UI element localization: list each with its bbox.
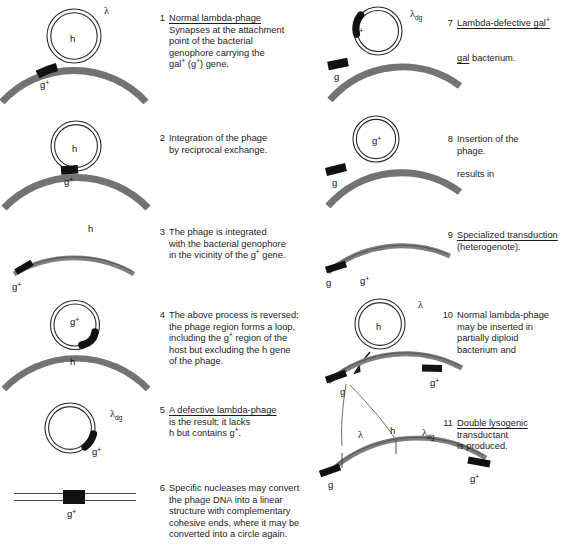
- caption-3-body: The phage is integrated with the bacteri…: [169, 227, 307, 262]
- panel-4-graphic: g+ h: [0, 292, 150, 397]
- caption-11-body: Double lysogenic transductant is produce…: [457, 418, 575, 453]
- caption-3-line-0: The phage is integrated: [169, 227, 307, 239]
- caption-3-line-2: in the vicinity of the g+ gene.: [169, 250, 307, 262]
- caption-7-line-0: Lambda-defective gal+: [457, 18, 575, 30]
- caption-3-line-1: with the bacterial genophore: [169, 239, 307, 251]
- caption-4-line-4: of the phage.: [169, 356, 310, 368]
- caption-5-number: 5: [152, 405, 165, 417]
- g-plus-marker-3: [16, 263, 32, 273]
- g-marker-9: [326, 264, 346, 270]
- caption-2-body: Integration of the phage by reciprocal e…: [169, 133, 302, 156]
- lambda-label-10: λ: [418, 299, 424, 310]
- caption-11-number: 11: [440, 418, 453, 430]
- g-plus-marker-6: [63, 490, 85, 504]
- caption-8-line-0: Insertion of the: [457, 134, 575, 146]
- caption-7-line-2: gal bacterium.: [457, 53, 575, 65]
- caption-4-line-1: the phage region forms a loop,: [169, 322, 310, 334]
- caption-6-line-2: structure with complementary: [169, 506, 322, 518]
- caption-8-line-3: results in: [457, 169, 575, 181]
- panel-6-graphic: g+: [0, 480, 150, 530]
- caption-4: 4 The above process is reversed; the pha…: [152, 310, 310, 368]
- caption-2: 2 Integration of the phage by reciprocal…: [152, 133, 302, 156]
- caption-10-line-1: may be inserted in: [457, 322, 575, 334]
- caption-2-number: 2: [152, 133, 165, 145]
- gal-site-marker-7: [328, 62, 348, 66]
- connector-left-11: [342, 384, 347, 446]
- g-label-11: g: [328, 479, 333, 490]
- caption-1: 1 Normal lambda-phage Synapses at the at…: [152, 13, 302, 71]
- g-plus-label-6: g+: [67, 508, 76, 519]
- caption-4-line-2: including the g+ region of the: [169, 333, 310, 345]
- caption-4-body: The above process is reversed; the phage…: [169, 310, 310, 368]
- g-plus-label-5: g+: [92, 446, 101, 457]
- caption-1-line-4: gal+ (g+) gene.: [169, 59, 302, 71]
- panel-3-graphic: h g+: [0, 212, 150, 300]
- caption-2-line-1: by reciprocal exchange.: [169, 145, 302, 157]
- caption-5-line-0: A defective lambda-phage: [169, 405, 307, 417]
- h-label-3: h: [88, 223, 93, 234]
- h-label-10: h: [376, 321, 381, 332]
- caption-2-line-0: Integration of the phage: [169, 133, 302, 145]
- caption-10: 10 Normal lambda-phage may be inserted i…: [440, 310, 575, 356]
- caption-6-line-4: converted into a circle again.: [169, 529, 322, 541]
- caption-6-number: 6: [152, 483, 165, 495]
- caption-6: 6 Specific nucleases may convert the pha…: [152, 483, 322, 541]
- caption-11-line-2: is produced.: [457, 441, 575, 453]
- g-plus-label-11: g+: [470, 473, 479, 484]
- g-label-9: g: [326, 277, 331, 288]
- attachment-site-marker-2: [61, 169, 78, 170]
- caption-9-line-1: (heterogenote).: [457, 242, 576, 254]
- caption-7-gap: [457, 30, 575, 42]
- g-plus-marker-11: [468, 460, 490, 464]
- figure-canvas: λ h g+ 1 Normal lambda-phage Synapses at…: [0, 0, 576, 548]
- panel-2-graphic: h g+: [0, 112, 150, 212]
- panel-1-graphic: λ h g+: [0, 0, 150, 112]
- caption-10-line-3: bacterium and: [457, 345, 575, 357]
- caption-1-body: Normal lambda-phage Synapses at the atta…: [169, 13, 302, 71]
- h-label-1: h: [70, 33, 75, 44]
- h-label-4: h: [70, 356, 75, 367]
- caption-8: 8 Insertion of the phage. results in: [440, 134, 575, 180]
- h-label-11: h: [390, 425, 395, 436]
- caption-4-line-0: The above process is reversed;: [169, 310, 310, 322]
- g-plus-label-3: g+: [12, 281, 21, 292]
- lambda-label-1: λ: [104, 5, 110, 16]
- g-marker-11: [320, 467, 340, 474]
- genophore-arc-1-outline: [2, 70, 146, 102]
- g-label-7: g: [334, 71, 339, 82]
- h-label-2: h: [72, 143, 77, 154]
- caption-7-body: Lambda-defective gal+ gal bacterium.: [457, 18, 575, 64]
- caption-9-line-0: Specialized transduction: [457, 230, 576, 242]
- caption-10-body: Normal lambda-phage may be inserted in p…: [457, 310, 575, 356]
- caption-8-line-1: phage.: [457, 146, 575, 158]
- caption-1-line-0: Normal lambda-phage: [169, 13, 302, 25]
- caption-8-body: Insertion of the phage. results in: [457, 134, 575, 180]
- g-plus-label-2: g+: [64, 176, 73, 187]
- caption-9-number: 9: [440, 230, 453, 242]
- caption-4-number: 4: [152, 310, 165, 322]
- caption-5-line-2: h but contains g+.: [169, 428, 307, 440]
- g-plus-marker-10: [422, 368, 442, 369]
- caption-9: 9 Specialized transduction (heterogenote…: [440, 230, 576, 253]
- caption-8-number: 8: [440, 134, 453, 146]
- caption-10-line-0: Normal lambda-phage: [457, 310, 575, 322]
- genophore-arc-4-outline: [4, 358, 148, 389]
- caption-5: 5 A defective lambda-phage is the result…: [152, 405, 307, 440]
- caption-11-line-1: transductant: [457, 430, 575, 442]
- panel-9-graphic: g g+: [300, 212, 460, 300]
- lambda-dg-label-7: λdg: [410, 8, 423, 22]
- caption-1-number: 1: [152, 13, 165, 25]
- g-plus-label-1: g+: [40, 79, 49, 90]
- caption-3-number: 3: [152, 227, 165, 239]
- caption-7: 7 Lambda-defective gal+ gal bacterium.: [440, 18, 575, 64]
- caption-7-gap-2: [457, 41, 575, 53]
- caption-11-line-0: Double lysogenic: [457, 418, 575, 430]
- g-plus-label-9: g+: [360, 275, 369, 286]
- caption-11: 11 Double lysogenic transductant is prod…: [440, 418, 575, 453]
- caption-6-line-3: cohesive ends, where it may be: [169, 518, 322, 530]
- caption-1-line-1: Synapses at the attachment: [169, 25, 302, 37]
- lambda-dg-label-5: λdg: [110, 408, 123, 422]
- panel-5-graphic: λdg g+: [0, 395, 150, 467]
- caption-7-number: 7: [440, 18, 453, 30]
- caption-1-line-2: point of the bacterial: [169, 36, 302, 48]
